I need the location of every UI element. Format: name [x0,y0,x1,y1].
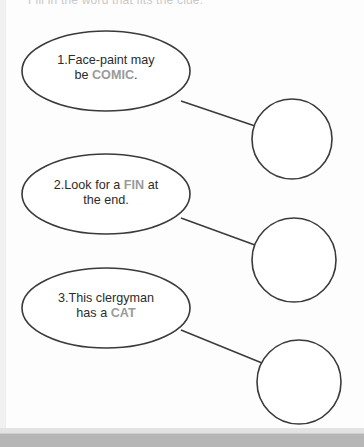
connector-line-1 [181,101,255,126]
clue-highlight-1: COMIC [92,68,134,82]
answer-circle-1[interactable] [252,99,332,179]
connector-line-3 [181,330,262,363]
answer-circle-2[interactable] [252,218,336,302]
clue-highlight-3: CAT [111,306,136,320]
clue-line2-prefix-1: be [75,68,93,82]
clue-highlight-2: FIN [124,178,144,192]
clue-number-2: 2. [54,178,65,192]
clue-line2-prefix-3: has a [76,306,110,320]
answer-circle-3[interactable] [257,340,341,424]
clue-number-3: 3. [58,291,69,305]
clue-line1-suffix-2: at [144,178,158,192]
clue-line2-suffix-1: . [134,68,138,82]
clue-line1-1: Face-paint may [68,53,155,67]
clue-line2-2: the end. [83,193,129,207]
clue-text-3: 3.This clergyman has a CAT [28,291,184,321]
clue-number-1: 1. [57,53,68,67]
connector-line-2 [181,218,255,245]
clue-line1-2: Look for a [64,178,124,192]
clue-text-2: 2.Look for a FIN at the end. [28,178,184,208]
clue-text-1: 1.Face-paint may be COMIC. [28,53,184,83]
worksheet-page: Fill in the word that fits the clue. 1.F… [0,0,364,447]
clue-line1-3: This clergyman [69,291,154,305]
